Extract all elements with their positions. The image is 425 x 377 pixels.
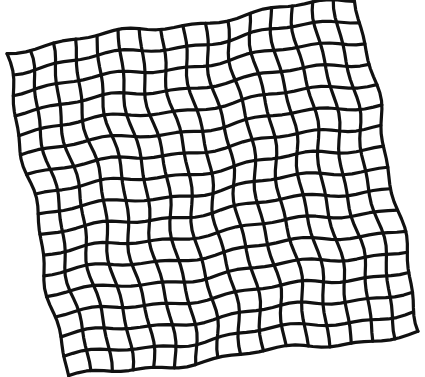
warped-grid-canvas <box>0 0 425 377</box>
